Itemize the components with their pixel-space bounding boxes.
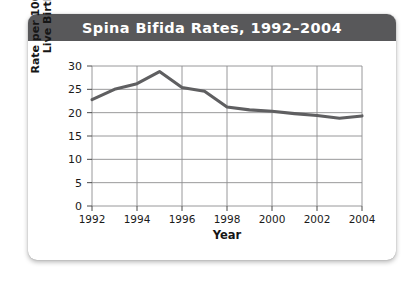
y-axis-title-line2: Live Births xyxy=(42,0,54,53)
x-axis-title: Year xyxy=(92,228,362,242)
page-title: Spina Bifida Rates, 1992–2004 xyxy=(82,20,342,36)
chart-card: Spina Bifida Rates, 1992–2004 xyxy=(28,14,396,260)
y-axis-title: Rate per 100,000 Live Births xyxy=(24,0,60,90)
chart-title-bar: Spina Bifida Rates, 1992–2004 xyxy=(28,14,396,41)
